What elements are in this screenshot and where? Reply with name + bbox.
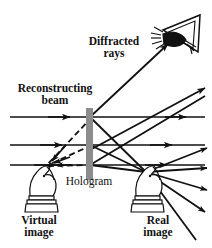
label-real-image: Real image [126,214,190,238]
real-image-knight [131,166,164,212]
diffracted-ray-upper [90,88,205,150]
label-reconstructing-beam: Reconstructing beam [6,82,104,106]
eye-corner-creases [186,41,196,54]
real-knight-collar [135,196,160,200]
real-knight-base [131,204,164,212]
hologram-plate [86,108,93,180]
virtual-dashed-ray-2 [46,145,92,166]
label-diffracted-rays: Diffracted rays [74,35,154,59]
real-knight-eye [149,175,151,177]
hologram-ray-diagram: Diffracted rays Reconstructing beam Holo… [0,0,212,248]
label-virtual-image: Virtual image [2,214,76,238]
diffracted-rays-group [90,44,205,165]
eye-illustration [151,15,200,54]
virtual-image-knight [25,166,58,212]
virtual-knight-eye [43,175,45,177]
label-hologram: Hologram [53,175,125,187]
virtual-knight-base [25,204,58,212]
virtual-knight-collar [29,196,54,200]
eyeball-shape [163,32,186,46]
